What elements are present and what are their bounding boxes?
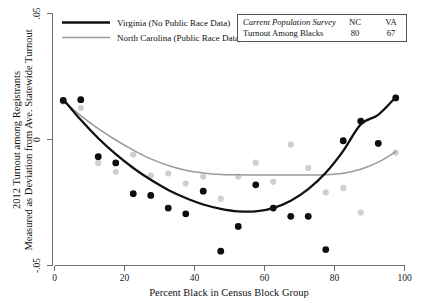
data-point	[322, 246, 329, 253]
data-point	[358, 209, 364, 215]
scatter-points-north-carolina	[60, 99, 399, 216]
x-axis-title: Percent Black in Census Block Group	[149, 287, 309, 298]
series-layer	[60, 95, 399, 255]
info-table-value-va: 67	[387, 28, 396, 38]
info-table-column-va: VA	[385, 17, 397, 27]
y-axis-title-line2: Measured as Deviation from Ave. Statewid…	[23, 29, 34, 250]
y-axis-title-line1: 2012 Turnout among Registrants	[11, 71, 22, 209]
data-point	[147, 192, 154, 199]
data-point	[340, 137, 347, 144]
info-table-row-label: Turnout Among Blacks	[243, 28, 324, 38]
data-point	[375, 140, 382, 147]
y-tick-label-2: -.05	[32, 258, 42, 273]
legend-label-north-carolina: North Carolina (Public Race Data)	[117, 33, 242, 43]
x-tick-label-5: 100	[397, 273, 412, 283]
data-point	[287, 213, 294, 220]
data-point	[305, 213, 312, 220]
data-point	[305, 165, 311, 171]
info-table-column-nc: NC	[349, 17, 361, 27]
data-point	[78, 105, 84, 111]
data-point	[252, 181, 259, 188]
chart-legend: Virginia (No Public Race Data) North Car…	[62, 18, 242, 43]
data-point	[200, 173, 206, 179]
data-point	[113, 169, 119, 175]
turnout-scatter-chart: .05 0 -.05 0 20 40 60 80 100 2012 Turnou…	[0, 0, 421, 303]
y-axis: .05 0 -.05	[32, 7, 53, 273]
data-point	[218, 196, 224, 202]
data-point	[200, 188, 207, 195]
data-point	[130, 152, 136, 158]
data-point	[165, 205, 172, 212]
data-point	[165, 170, 171, 176]
data-point	[253, 160, 259, 166]
fit-line-virginia	[63, 97, 396, 212]
data-point	[95, 153, 102, 160]
data-point	[77, 96, 84, 103]
series-north-carolina	[60, 99, 399, 216]
data-point	[270, 179, 276, 185]
info-table-value-nc: 80	[351, 28, 360, 38]
data-point	[112, 160, 119, 167]
data-point	[130, 190, 137, 197]
data-point	[95, 160, 101, 166]
y-tick-label-0: .05	[32, 7, 42, 19]
data-point	[235, 223, 242, 230]
data-point	[217, 248, 224, 255]
x-tick-label-2: 40	[190, 273, 200, 283]
data-point	[182, 210, 189, 217]
x-tick-label-0: 0	[52, 273, 57, 283]
figure-container: .05 0 -.05 0 20 40 60 80 100 2012 Turnou…	[0, 0, 421, 303]
info-table: Current Population Survey NC VA Turnout …	[238, 15, 407, 42]
x-tick-label-4: 80	[330, 273, 340, 283]
x-axis: 0 20 40 60 80 100	[52, 266, 412, 284]
legend-label-virginia: Virginia (No Public Race Data)	[117, 18, 230, 28]
data-point	[340, 185, 346, 191]
data-point	[288, 141, 294, 147]
info-table-header-label: Current Population Survey	[243, 17, 336, 27]
x-tick-label-1: 20	[120, 273, 130, 283]
data-point	[323, 189, 329, 195]
x-tick-label-3: 60	[260, 273, 270, 283]
data-point	[183, 181, 189, 187]
